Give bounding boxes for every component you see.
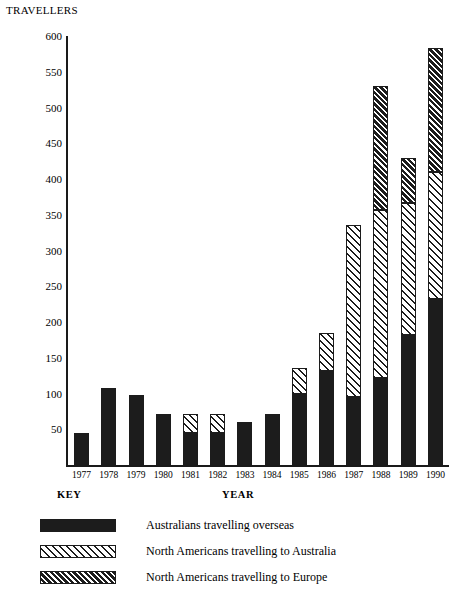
bar-segment-hatch-light[interactable] xyxy=(292,368,307,393)
y-tick-label: 150 xyxy=(28,352,62,363)
legend-item[interactable]: North Americans travelling to Australia xyxy=(40,538,440,564)
y-tick-label: 200 xyxy=(28,317,62,328)
x-tick-label: 1990 xyxy=(418,469,452,481)
bar-group[interactable] xyxy=(346,225,361,465)
y-tick-label: 600 xyxy=(28,31,62,42)
bar-segment-hatch-light[interactable] xyxy=(428,172,443,299)
bar-segment-solid[interactable] xyxy=(183,433,198,465)
bar-segment-solid[interactable] xyxy=(428,299,443,465)
y-tick-label: 400 xyxy=(28,174,62,185)
bar-segment-solid[interactable] xyxy=(129,395,144,465)
bar-segment-hatch-dark[interactable] xyxy=(373,86,388,210)
plot-area: 50100150200250300350400450500550600 xyxy=(68,36,449,465)
bar-segment-hatch-dark[interactable] xyxy=(401,158,416,203)
chart-container: TRAVELLERS 50100150200250300350400450500… xyxy=(0,0,458,592)
x-axis-ticks: 1977197819791980198119821983198419851986… xyxy=(68,469,449,483)
bar-group[interactable] xyxy=(373,86,388,465)
bar-segment-hatch-light[interactable] xyxy=(210,414,225,433)
y-tick-label: 100 xyxy=(28,388,62,399)
bar-series-group xyxy=(68,36,449,465)
y-tick-label: 350 xyxy=(28,209,62,220)
y-tick-label: 250 xyxy=(28,281,62,292)
y-axis-title: TRAVELLERS xyxy=(6,4,78,16)
chart-legend: Australians travelling overseasNorth Ame… xyxy=(40,512,440,590)
bar-segment-solid[interactable] xyxy=(101,388,116,465)
bar-group[interactable] xyxy=(156,414,171,465)
y-tick-label: 300 xyxy=(28,245,62,256)
legend-item[interactable]: North Americans travelling to Europe xyxy=(40,564,440,590)
y-tick-label: 550 xyxy=(28,66,62,77)
bar-segment-hatch-light[interactable] xyxy=(401,203,416,335)
y-tick-label: 450 xyxy=(28,138,62,149)
bar-segment-solid[interactable] xyxy=(237,422,252,465)
x-axis-line xyxy=(66,465,449,467)
bar-group[interactable] xyxy=(292,368,307,465)
legend-swatch-solid xyxy=(40,519,116,532)
year-heading: YEAR xyxy=(222,489,254,500)
bar-segment-solid[interactable] xyxy=(319,371,334,465)
bar-group[interactable] xyxy=(210,414,225,465)
y-tick-label: 500 xyxy=(28,102,62,113)
bar-segment-solid[interactable] xyxy=(265,414,280,465)
bar-segment-solid[interactable] xyxy=(292,394,307,466)
bar-segment-solid[interactable] xyxy=(156,414,171,465)
bar-segment-solid[interactable] xyxy=(74,433,89,465)
bar-segment-solid[interactable] xyxy=(373,378,388,465)
legend-swatch-hatch-light xyxy=(40,545,116,558)
legend-label: North Americans travelling to Europe xyxy=(146,570,327,585)
bar-group[interactable] xyxy=(183,414,198,465)
bar-segment-hatch-light[interactable] xyxy=(373,210,388,378)
bar-group[interactable] xyxy=(428,48,443,465)
bar-group[interactable] xyxy=(237,422,252,465)
bar-group[interactable] xyxy=(101,388,116,465)
bar-group[interactable] xyxy=(265,414,280,465)
bar-group[interactable] xyxy=(74,433,89,465)
bar-segment-hatch-light[interactable] xyxy=(183,414,198,433)
legend-label: Australians travelling overseas xyxy=(146,518,294,533)
bar-segment-solid[interactable] xyxy=(346,397,361,465)
legend-label: North Americans travelling to Australia xyxy=(146,544,336,559)
legend-swatch-hatch-dark xyxy=(40,571,116,584)
bar-segment-hatch-light[interactable] xyxy=(346,225,361,397)
bar-segment-hatch-dark[interactable] xyxy=(428,48,443,172)
bar-group[interactable] xyxy=(129,395,144,465)
bar-segment-solid[interactable] xyxy=(401,335,416,465)
bar-segment-solid[interactable] xyxy=(210,433,225,465)
bar-segment-hatch-light[interactable] xyxy=(319,333,334,371)
bar-group[interactable] xyxy=(319,333,334,465)
key-heading: KEY xyxy=(57,489,82,500)
legend-item[interactable]: Australians travelling overseas xyxy=(40,512,440,538)
y-tick-label: 50 xyxy=(28,424,62,435)
bar-group[interactable] xyxy=(401,158,416,465)
